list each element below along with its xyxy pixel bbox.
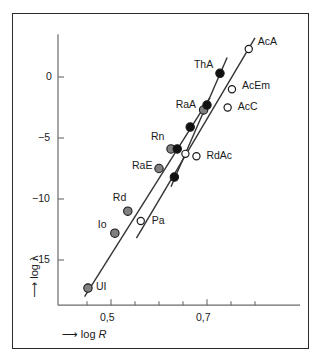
data-point-thorium-series[interactable]	[173, 145, 181, 153]
data-point-RaE[interactable]	[155, 164, 163, 172]
point-label-AcEm: AcEm	[242, 79, 270, 91]
data-point-AcEm[interactable]	[228, 86, 235, 93]
plot-canvas	[0, 0, 323, 364]
data-point-Io[interactable]	[111, 229, 119, 237]
y-tick-label: −15	[32, 253, 50, 265]
data-point-thorium-series[interactable]	[203, 101, 211, 109]
x-axis-label: ⟶ log R	[62, 328, 107, 341]
x-axis-label-text: log	[81, 328, 99, 340]
geiger-nuttall-figure: ⟶ log λ ⟶ log R 0,50,70−5−10−15 UIIoRdRa…	[0, 0, 323, 364]
data-point-thorium-series[interactable]	[186, 123, 194, 131]
point-label-AcC: AcC	[238, 100, 258, 112]
y-axis-arrow-icon: ⟶	[28, 282, 40, 298]
x-tick-label: 0,7	[196, 311, 211, 323]
point-label-Io: Io	[98, 218, 107, 230]
data-point-Rd[interactable]	[124, 207, 132, 215]
data-point-RdAc[interactable]	[193, 153, 200, 160]
y-tick-label: 0	[46, 70, 52, 82]
point-label-RaA: RaA	[176, 98, 196, 110]
x-tick-label: 0,5	[100, 311, 115, 323]
data-point-UI[interactable]	[84, 284, 92, 292]
point-label-Pa: Pa	[152, 214, 165, 226]
point-label-RdAc: RdAc	[206, 149, 232, 161]
data-point-ThA[interactable]	[216, 69, 224, 77]
data-point-Pa[interactable]	[137, 217, 144, 224]
y-tick-label: −10	[32, 192, 50, 204]
y-tick-label: −5	[38, 131, 50, 143]
point-label-ThA: ThA	[194, 58, 213, 70]
point-label-RaE: RaE	[132, 159, 152, 171]
point-label-UI: UI	[96, 280, 107, 292]
y-axis-label: ⟶ log λ	[28, 237, 41, 317]
point-label-Rn: Rn	[151, 130, 164, 142]
data-point-AcA[interactable]	[245, 45, 252, 52]
data-point-thorium-series[interactable]	[170, 173, 178, 181]
point-label-AcA: AcA	[258, 35, 277, 47]
data-point-AcC[interactable]	[224, 104, 231, 111]
x-axis-arrow-icon: ⟶	[62, 328, 78, 340]
data-point-actinium-series[interactable]	[182, 150, 189, 157]
x-axis-label-italic: R	[99, 328, 107, 340]
point-label-Rd: Rd	[113, 191, 126, 203]
